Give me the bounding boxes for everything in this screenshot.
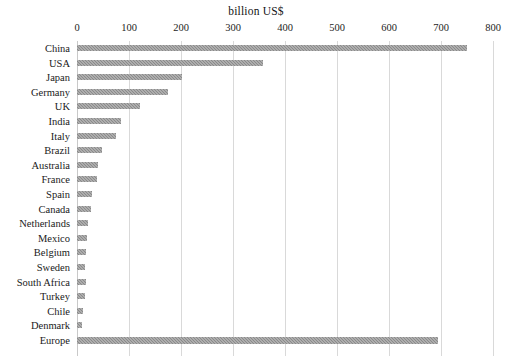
bar-row: India [0,114,512,129]
bar-canada [77,206,91,212]
bar-belgium [77,249,86,255]
bar-row: Brazil [0,143,512,158]
category-label-brazil: Brazil [0,143,70,158]
bar-row: Canada [0,202,512,217]
category-label-turkey: Turkey [0,289,70,304]
bar-europe [77,337,438,344]
bar-japan [77,74,182,80]
category-label-canada: Canada [0,202,70,217]
x-tick-label-300: 300 [225,22,241,33]
bar-usa [77,60,263,66]
category-label-south-africa: South Africa [0,275,70,290]
bar-china [77,45,467,51]
x-tick-label-100: 100 [121,22,137,33]
category-label-uk: UK [0,99,70,114]
bar-india [77,118,121,124]
bar-mexico [77,235,87,241]
x-tick-label-700: 700 [433,22,449,33]
x-tick-label-800: 800 [485,22,501,33]
bar-row: Europe [0,333,512,348]
category-label-italy: Italy [0,129,70,144]
bar-row: Italy [0,129,512,144]
category-label-europe: Europe [0,333,70,348]
bar-row: Denmark [0,318,512,333]
bar-row: Belgium [0,245,512,260]
bar-row: Netherlands [0,216,512,231]
bar-row: Sweden [0,260,512,275]
bar-sweden [77,264,85,270]
category-label-chile: Chile [0,304,70,319]
bar-denmark [77,322,82,328]
bar-row: UK [0,99,512,114]
bar-row: Australia [0,158,512,173]
category-label-china: China [0,41,70,56]
bar-row: France [0,172,512,187]
bar-turkey [77,293,85,299]
bar-row: Mexico [0,231,512,246]
bar-spain [77,191,92,197]
category-label-spain: Spain [0,187,70,202]
bar-italy [77,133,116,139]
chart-title: billion US$ [0,5,512,17]
x-tick-label-500: 500 [329,22,345,33]
category-label-belgium: Belgium [0,245,70,260]
x-tick-label-0: 0 [74,22,79,33]
bar-uk [77,103,140,109]
category-label-usa: USA [0,56,70,71]
bar-south-africa [77,279,86,285]
category-label-denmark: Denmark [0,318,70,333]
x-axis-tick-labels: 0100200300400500600700800 [77,22,493,38]
bar-netherlands [77,220,88,226]
category-label-germany: Germany [0,85,70,100]
bar-australia [77,162,98,168]
x-tick-label-600: 600 [381,22,397,33]
category-label-sweden: Sweden [0,260,70,275]
bar-chart: billion US$ 0100200300400500600700800 Ch… [0,0,512,364]
category-label-australia: Australia [0,158,70,173]
bar-rows: ChinaUSAJapanGermanyUKIndiaItalyBrazilAu… [0,41,512,356]
bar-row: South Africa [0,275,512,290]
bar-row: Germany [0,85,512,100]
bar-row: USA [0,56,512,71]
bar-row: Chile [0,304,512,319]
bar-row: Spain [0,187,512,202]
category-label-japan: Japan [0,70,70,85]
bar-germany [77,89,168,95]
bar-france [77,176,97,182]
x-tick-label-200: 200 [173,22,189,33]
bar-row: China [0,41,512,56]
x-tick-label-400: 400 [277,22,293,33]
category-label-france: France [0,172,70,187]
bar-chile [77,308,83,314]
category-label-mexico: Mexico [0,231,70,246]
category-label-india: India [0,114,70,129]
bar-row: Turkey [0,289,512,304]
bar-brazil [77,147,102,153]
category-label-netherlands: Netherlands [0,216,70,231]
bar-row: Japan [0,70,512,85]
